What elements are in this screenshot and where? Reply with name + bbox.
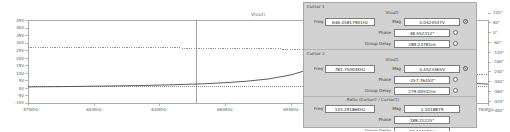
ytick-right-9: -420° [493,99,504,104]
ytick-right-1: 60° [493,20,500,25]
cursor-2-groupdelay-radio[interactable] [453,88,458,93]
ytick-left-9: 0V [19,86,25,91]
cursor-2-mag-field[interactable]: 4.4523465V [404,65,460,73]
cursor-1-mag-radio[interactable] [463,19,468,24]
cursor-1-mag-field[interactable]: 4.0424537V [404,18,460,26]
cursor-1-groupdelay-field[interactable]: 289.23781ns [394,40,450,48]
cursor-2-phase-label: Phase [307,77,394,82]
cursor-1-mag-label: Mag [375,19,404,24]
ytick-left-11: -10V [15,100,25,105]
ratio-mag-field: 1.1018879 [404,105,460,113]
cursor-1-row-phase: Phase 48.552312° [304,27,476,38]
ratio-groupdelay-field: -10.144584ns [394,127,450,132]
ytick-right-8: -360° [493,89,504,94]
cursor-1-phase-label: Phase [307,30,394,35]
ratio-phase-label: Phase [307,117,394,122]
ytick-left-7: 10V [16,71,24,76]
cursor-1-row-groupdelay: Group Delay 289.23781ns [304,38,476,49]
cursor-2-phase-radio[interactable] [453,77,458,82]
ytick-left-5: 20V [16,56,24,61]
cursor-1-freq-field[interactable]: 646.45817901Hz [325,18,375,26]
cursor-2-row-groupdelay: Group Delay 279.00532ns [304,85,476,96]
ytick-left-2: 35V [16,33,24,38]
cursor-1-group: Cursor 1 V(out) Freq 646.45817901Hz Mag … [304,3,476,49]
ytick-left-3: 30V [16,40,24,45]
cursor-1-freq-label: Freq [307,19,325,24]
ytick-left-10: -5V [17,93,24,98]
ytick-right-2: 0° [493,30,498,35]
cursor-2-phase-field[interactable]: -257.76453° [394,76,450,84]
cursor-2-row-phase: Phase -257.76453° [304,74,476,85]
ytick-right-0: 120° [493,10,503,15]
ytick-right-7: -300° [493,79,504,84]
cursor-2-group: Cursor 2 V(out) Freq 781.75003KHz Mag 4.… [304,50,476,96]
ytick-right-10: -480° [493,108,504,113]
cursor-2-title: Cursor 2 [304,50,476,57]
ytick-right-4: -120° [493,50,504,55]
ytick-left-4: 25V [16,48,24,53]
ratio-mag-label: Mag [375,106,404,111]
xtick-4: 690KHz [283,107,298,112]
ratio-group: Ratio (Cursor2 / Cursor1) Freq 133.29186… [304,97,476,131]
cursor-2-mag-radio[interactable] [463,66,468,71]
cursor-2-row-mag: Freq 781.75003KHz Mag 4.4523465V [304,63,476,74]
ratio-row-groupdelay: Group Delay -10.144584ns [304,125,476,131]
ytick-left-0: 45V [16,18,24,23]
ratio-freq-field[interactable]: 133.29186KHz [325,105,375,113]
xtick-7: 780KHz [478,107,493,112]
cursor-2-mag-label: Mag [375,66,404,71]
ratio-freq-label: Freq [307,106,325,111]
ytick-right-3: -60° [493,40,502,45]
xtick-3: 660KHz [217,107,232,112]
ratio-phase-field: 188.21225° [394,116,450,124]
ytick-left-8: 5V [19,78,25,83]
ltspice-waveform-window: 45V 40V 35V 30V 25V 20V 15V 10V 5V 0V -5… [0,0,510,131]
cursor-1-phase-radio[interactable] [453,30,458,35]
ytick-left-6: 15V [16,63,24,68]
ytick-right-6: -240° [493,69,504,74]
plot-title: V(out) [251,12,265,17]
xtick-1: 600KHz [86,107,101,112]
cursor-2-freq-label: Freq [307,66,325,71]
ytick-right-5: -180° [493,59,504,64]
cursor-2-groupdelay-label: Group Delay [307,88,394,93]
cursor-1-groupdelay-radio[interactable] [453,41,458,46]
xtick-0: 570KHz [23,107,38,112]
cursor-1-title: Cursor 1 [304,3,476,10]
cursor-2-freq-field[interactable]: 781.75003KHz [325,65,375,73]
cursor-1-phase-field[interactable]: 48.552312° [394,29,450,37]
ratio-groupdelay-label: Group Delay [307,128,394,131]
cursor-measurement-panel[interactable]: Cursor 1 V(out) Freq 646.45817901Hz Mag … [303,2,477,128]
cursor-2-groupdelay-field[interactable]: 279.00532ns [394,87,450,95]
xtick-2: 630KHz [151,107,166,112]
ytick-left-1: 40V [16,25,24,30]
ratio-row-mag: Freq 133.29186KHz Mag 1.1018879 [304,103,476,114]
cursor-1-groupdelay-label: Group Delay [307,41,394,46]
cursor-1-row-mag: Freq 646.45817901Hz Mag 4.0424537V [304,16,476,27]
ratio-row-phase: Phase 188.21225° [304,114,476,125]
